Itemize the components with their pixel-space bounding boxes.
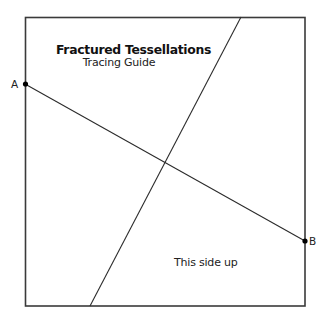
- point-a-label: A: [11, 78, 18, 90]
- guide-subtitle: Tracing Guide: [56, 56, 182, 69]
- tracing-guide-canvas: Fractured Tessellations Tracing Guide Th…: [0, 0, 325, 320]
- point-a-marker: [23, 81, 28, 86]
- orientation-note: This side up: [174, 256, 238, 269]
- point-b-marker: [302, 238, 307, 243]
- point-b-label: B: [309, 235, 316, 247]
- guide-title: Fractured Tessellations: [56, 42, 186, 57]
